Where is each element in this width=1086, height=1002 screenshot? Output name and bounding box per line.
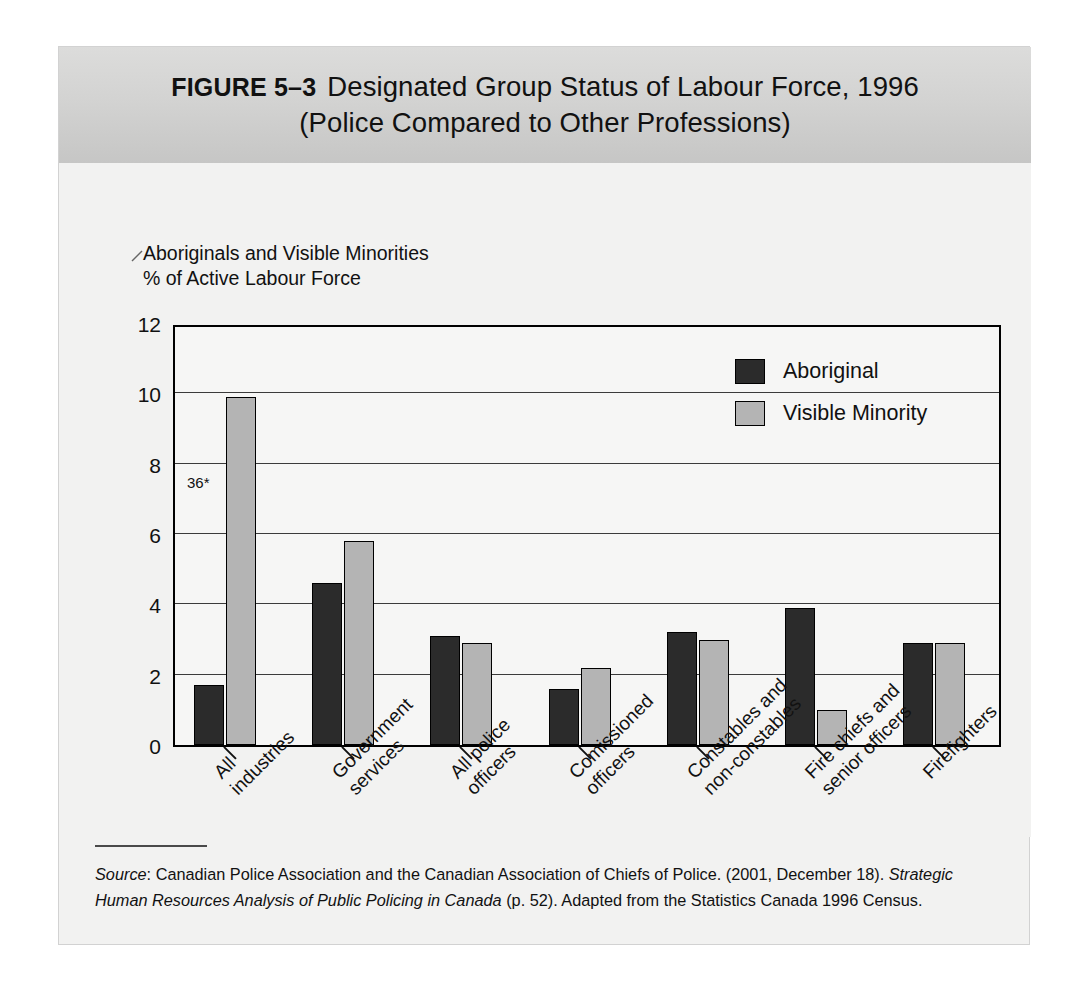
y-axis-tick-label: 6 (127, 524, 161, 548)
bar-aboriginal (430, 636, 460, 745)
source-note: Source: Canadian Police Association and … (59, 837, 1031, 946)
bar-visible-minority (226, 397, 256, 745)
legend-swatch-aboriginal (735, 359, 765, 384)
y-axis-tick-label: 2 (127, 665, 161, 689)
y-axis-tick-label: 8 (127, 454, 161, 478)
figure-title-line-1: FIGURE 5–3 Designated Group Status of La… (171, 69, 919, 105)
axis-pointer-icon (131, 250, 143, 262)
legend-item-aboriginal: Aboriginal (735, 359, 927, 384)
gridline (175, 392, 999, 393)
y-axis-tick-label: 0 (127, 735, 161, 759)
y-axis-caption: Aboriginals and Visible Minorities % of … (143, 241, 429, 290)
chart-body: Aboriginals and Visible Minorities % of … (59, 163, 1031, 837)
source-tail: (p. 52). Adapted from the Statistics Can… (502, 891, 923, 909)
source-divider (95, 845, 207, 847)
figure-number-label: FIGURE 5–3 (171, 69, 316, 105)
chart-annotation: 36* (187, 474, 210, 491)
bar-aboriginal (903, 643, 933, 745)
source-text: Source: Canadian Police Association and … (95, 861, 995, 913)
figure-header: FIGURE 5–3 Designated Group Status of La… (59, 47, 1031, 163)
source-prefix: Source (95, 865, 147, 883)
y-axis-caption-line-2: % of Active Labour Force (143, 266, 429, 291)
gridline (175, 603, 999, 604)
y-axis-tick-labels: 024681012 (127, 325, 161, 747)
figure-title-main: Designated Group Status of Labour Force,… (327, 69, 919, 105)
plot-area: Aboriginal Visible Minority 36* (173, 325, 1001, 747)
bar-aboriginal (312, 583, 342, 745)
bar-visible-minority (344, 541, 374, 745)
y-axis-tick-label: 12 (127, 313, 161, 337)
source-body: : Canadian Police Association and the Ca… (147, 865, 889, 883)
figure-card: FIGURE 5–3 Designated Group Status of La… (58, 46, 1030, 945)
legend-swatch-visible-minority (735, 401, 765, 426)
y-axis-tick-label: 4 (127, 594, 161, 618)
bar-aboriginal (667, 632, 697, 745)
legend-item-visible-minority: Visible Minority (735, 401, 927, 426)
y-axis-caption-line-1: Aboriginals and Visible Minorities (143, 241, 429, 266)
figure-title-line-2: (Police Compared to Other Professions) (299, 105, 790, 141)
legend-label-visible-minority: Visible Minority (783, 401, 927, 426)
y-axis-tick-label: 10 (127, 383, 161, 407)
figure-page: { "figure": { "label": "FIGURE 5\u20133"… (0, 0, 1086, 1002)
gridline (175, 533, 999, 534)
gridline (175, 463, 999, 464)
legend-label-aboriginal: Aboriginal (783, 359, 879, 384)
bar-aboriginal (549, 689, 579, 745)
bar-aboriginal (194, 685, 224, 745)
